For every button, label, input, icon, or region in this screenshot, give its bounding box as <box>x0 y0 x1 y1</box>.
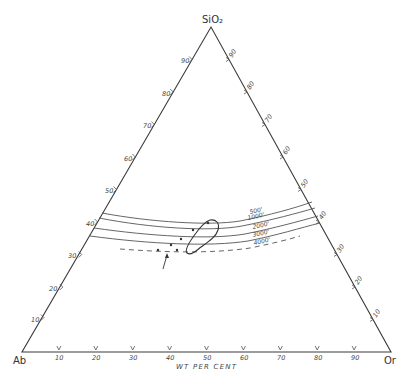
svg-text:40: 40 <box>86 220 94 228</box>
svg-text:90: 90 <box>227 48 238 59</box>
svg-text:60: 60 <box>281 145 292 156</box>
svg-text:90: 90 <box>181 57 189 65</box>
svg-text:30: 30 <box>68 252 76 260</box>
vertex-label-or: Or <box>384 355 397 366</box>
vertex-label-sio2: SiO₂ <box>202 14 223 25</box>
svg-text:50: 50 <box>299 178 310 189</box>
svg-text:40: 40 <box>317 210 328 221</box>
svg-text:20: 20 <box>49 285 57 293</box>
vertex-label-ab: Ab <box>13 355 26 366</box>
right-edge-tick-labels: 10 20 30 40 50 60 70 80 90 <box>227 48 382 319</box>
svg-text:80: 80 <box>245 80 256 91</box>
left-edge-tick-labels: 10 20 30 40 50 60 70 80 90 <box>31 57 189 324</box>
triangle-outline <box>22 27 391 352</box>
svg-text:30: 30 <box>335 243 346 254</box>
svg-text:70: 70 <box>263 113 274 124</box>
svg-text:60: 60 <box>124 155 132 163</box>
svg-text:80: 80 <box>162 90 170 98</box>
svg-text:90: 90 <box>351 354 359 362</box>
svg-text:70: 70 <box>277 354 285 362</box>
isobar-3000 <box>90 223 320 244</box>
svg-text:10: 10 <box>31 316 39 324</box>
svg-text:30: 30 <box>129 354 137 362</box>
base-tick-labels: 10 20 30 40 50 60 70 80 90 <box>55 354 359 362</box>
arrow-icon <box>163 253 169 269</box>
svg-text:20: 20 <box>92 354 100 362</box>
svg-text:10: 10 <box>371 308 382 319</box>
isobar-labels: 500' 1000' 2000' 3000' 4000' <box>247 205 271 246</box>
axis-title: WT PER CENT <box>176 363 237 371</box>
right-edge-ticks <box>226 58 373 322</box>
svg-text:50: 50 <box>203 354 211 362</box>
base-ticks <box>57 346 356 350</box>
svg-text:70: 70 <box>143 122 151 130</box>
ternary-diagram: 10 20 30 40 50 60 70 80 90 10 20 30 40 5… <box>0 0 416 382</box>
isobar-2000 <box>94 216 318 237</box>
svg-text:20: 20 <box>353 275 364 286</box>
svg-text:80: 80 <box>314 354 322 362</box>
svg-text:50: 50 <box>105 187 113 195</box>
svg-text:10: 10 <box>55 354 63 362</box>
svg-text:60: 60 <box>240 354 248 362</box>
isobar-500 <box>102 202 312 223</box>
svg-text:40: 40 <box>166 354 174 362</box>
